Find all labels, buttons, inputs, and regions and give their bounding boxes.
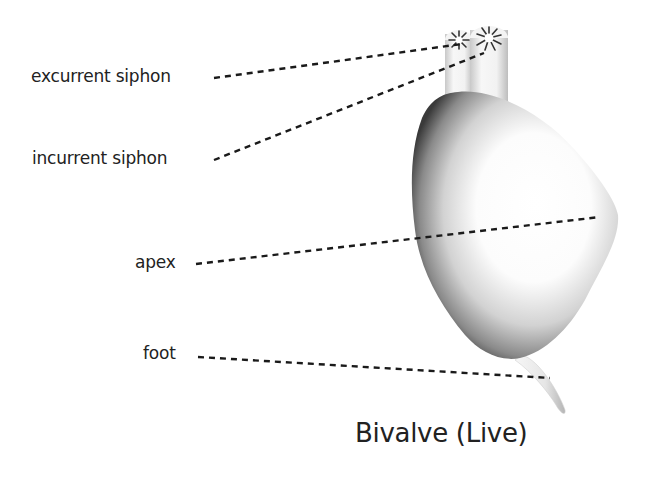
excurrent-opening-icon [449,31,469,49]
label-foot: foot [143,345,176,362]
foot-leader-line [198,357,550,378]
shell-body [412,92,618,359]
foot-shape [515,355,565,413]
label-excurrent-siphon: excurrent siphon [31,68,171,85]
diagram-title: Bivalve (Live) [355,418,527,448]
label-apex: apex [135,254,176,271]
label-incurrent-siphon: incurrent siphon [32,150,167,167]
excurrent-siphon-leader-line [214,44,462,78]
bivalve-diagram: excurrent siphon incurrent siphon apex f… [0,0,652,479]
